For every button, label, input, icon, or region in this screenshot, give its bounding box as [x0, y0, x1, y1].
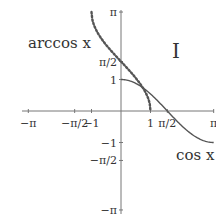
y-tick-label: −1: [101, 137, 117, 150]
x-tick-label: −π: [20, 117, 36, 130]
arccos-label: arccos x: [28, 34, 91, 52]
y-tick-label: π/2: [99, 56, 117, 69]
y-tick-label: −π/2: [90, 154, 117, 167]
panel-label: I: [172, 39, 180, 63]
x-tick-label: π/2: [158, 117, 176, 130]
y-tick-label: π: [110, 6, 117, 19]
y-tick-label: 1: [110, 74, 117, 87]
x-tick-label: 1: [147, 117, 154, 130]
cos-label: cos x: [176, 146, 215, 164]
y-tick-label: −π: [101, 204, 117, 217]
x-tick-label: π: [210, 117, 216, 130]
x-tick-label: −1: [83, 117, 99, 130]
function-plot: −π−π/2−11π/2πππ/21−1−π/2−π I arccos x co…: [0, 0, 216, 222]
